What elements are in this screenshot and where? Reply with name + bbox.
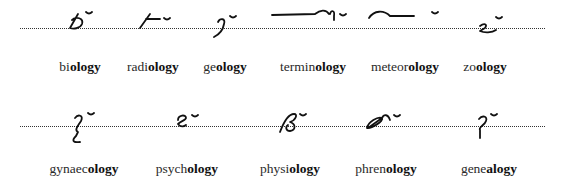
word-suffix: alogy [486, 161, 517, 176]
gynaecology-outline-icon [73, 113, 94, 142]
geology-outline-icon [214, 16, 236, 37]
word-stem: psych [156, 161, 188, 176]
radiology-outline-icon [140, 14, 170, 28]
word-suffix: ology [289, 161, 320, 176]
label-meteorology: meteorology [371, 59, 439, 75]
label-geology: geology [203, 59, 247, 75]
zoology-outline-icon [480, 17, 502, 32]
word-stem: zo [463, 59, 476, 74]
word-stem: ge [203, 59, 216, 74]
word-stem: phren [355, 161, 386, 176]
label-physiology: physiology [260, 161, 320, 177]
word-stem: bi [59, 59, 70, 74]
physiology-outline-icon [280, 114, 306, 132]
word-stem: meteor [371, 59, 408, 74]
terminology-outline-icon [272, 11, 346, 20]
biology-outline-icon [70, 12, 92, 29]
word-suffix: ology [216, 59, 247, 74]
label-phrenology: phrenology [355, 161, 417, 177]
word-suffix: ology [148, 59, 179, 74]
label-psychology: psychology [156, 161, 218, 177]
word-suffix: ology [70, 59, 101, 74]
label-biology: biology [59, 59, 100, 75]
word-suffix: ology [315, 59, 346, 74]
word-stem: physi [260, 161, 289, 176]
word-suffix: ology [88, 161, 119, 176]
word-suffix: ology [187, 161, 218, 176]
word-stem: gene [461, 161, 486, 176]
word-stem: termin [280, 59, 315, 74]
shorthand-outlines [0, 0, 562, 188]
label-terminology: terminology [280, 59, 346, 75]
genealogy-outline-icon [479, 114, 497, 138]
label-genealogy: genealogy [461, 161, 517, 177]
phrenology-outline-icon [367, 115, 400, 128]
word-suffix: ology [386, 161, 417, 176]
word-stem: radi [127, 59, 148, 74]
word-suffix: ology [408, 59, 439, 74]
word-stem: gynaec [50, 161, 88, 176]
word-suffix: ology [476, 59, 507, 74]
psychology-outline-icon [178, 115, 198, 126]
label-radiology: radiology [127, 59, 179, 75]
label-zoology: zoology [463, 59, 507, 75]
meteorology-outline-icon [369, 12, 438, 18]
label-gynaecology: gynaecology [50, 161, 119, 177]
